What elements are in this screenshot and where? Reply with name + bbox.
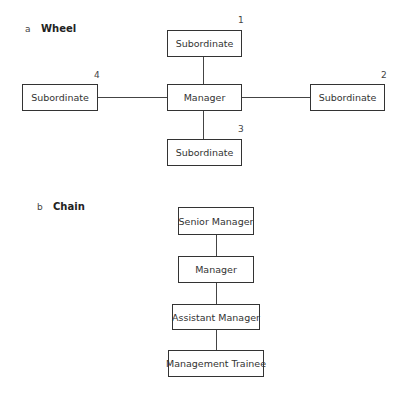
wheel-number-2: 2 bbox=[381, 70, 387, 80]
chain-connector-2 bbox=[216, 282, 217, 304]
chain-node-senior-manager: Senior Manager bbox=[178, 207, 254, 235]
chain-node-manager: Manager bbox=[178, 256, 254, 283]
chain-title: Chain bbox=[53, 201, 85, 212]
wheel-node-1: Subordinate bbox=[167, 30, 242, 57]
connector-bottom bbox=[203, 110, 204, 139]
wheel-node-4: Subordinate bbox=[22, 84, 98, 111]
wheel-center-manager: Manager bbox=[167, 84, 242, 111]
wheel-number-3: 3 bbox=[238, 124, 244, 134]
chain-letter: b bbox=[37, 202, 43, 212]
chain-node-management-trainee: Management Trainee bbox=[168, 350, 264, 377]
chain-node-assistant-manager: Assistant Manager bbox=[172, 304, 260, 330]
chain-connector-3 bbox=[216, 329, 217, 350]
connector-right bbox=[241, 97, 310, 98]
connector-left bbox=[97, 97, 167, 98]
chain-connector-1 bbox=[216, 234, 217, 256]
wheel-node-2: Subordinate bbox=[310, 84, 385, 111]
connector-top bbox=[203, 56, 204, 84]
wheel-number-1: 1 bbox=[238, 15, 244, 25]
wheel-number-4: 4 bbox=[94, 70, 100, 80]
wheel-letter: a bbox=[25, 24, 31, 34]
wheel-title: Wheel bbox=[41, 23, 76, 34]
wheel-node-3: Subordinate bbox=[167, 139, 242, 166]
